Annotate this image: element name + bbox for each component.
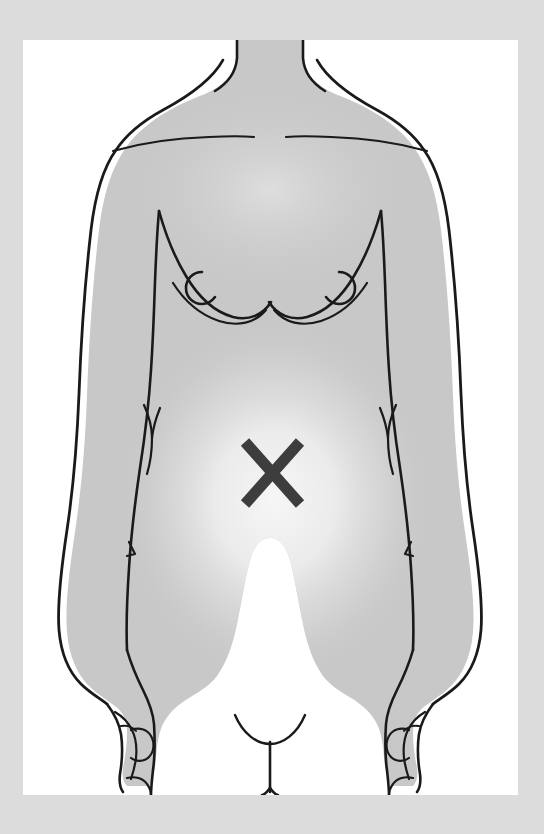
illustration-panel: Female torso anterior view with abdomina… xyxy=(23,40,518,795)
illustration-frame: Female torso anterior view with abdomina… xyxy=(0,0,544,834)
thigh-right-inner-outline xyxy=(270,788,278,795)
chest-highlight xyxy=(120,80,420,300)
body-silhouette xyxy=(66,40,473,786)
pubic-curve xyxy=(235,715,305,744)
female-torso-illustration xyxy=(23,40,518,795)
abdomen-highlight xyxy=(115,315,435,685)
thigh-left-inner-outline xyxy=(262,788,270,795)
